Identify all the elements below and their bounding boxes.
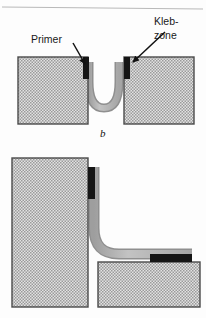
primer-label: Primer — [31, 33, 62, 45]
substrate-block-left-upper — [18, 57, 88, 124]
figure-caption: b — [100, 127, 106, 139]
technical-cross-section-diagram: Primer Kleb- zone b — [0, 0, 206, 318]
substrate-block-right-upper — [124, 57, 194, 124]
primer-layer-vertical-lower — [88, 167, 95, 199]
figure-canvas: Primer Kleb- zone b — [0, 0, 206, 318]
substrate-block-tall-lower — [12, 158, 88, 307]
primer-layer-left-upper — [83, 57, 89, 79]
substrate-block-base-lower — [98, 262, 200, 307]
klebzone-label-line1: Kleb- — [154, 15, 179, 27]
primer-layer-right-upper — [124, 57, 130, 79]
primer-layer-horizontal-lower — [150, 254, 192, 262]
